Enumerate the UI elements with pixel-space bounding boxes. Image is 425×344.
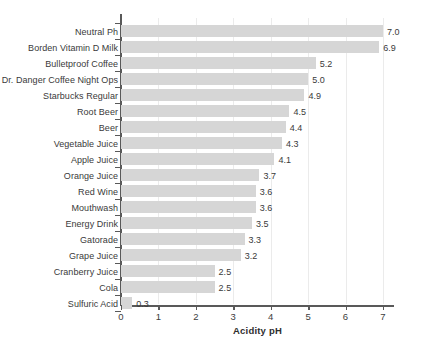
category-label: Cola — [99, 283, 118, 293]
value-label: 3.6 — [260, 203, 273, 213]
category-label: Starbucks Regular — [43, 91, 118, 101]
x-tick-label-5: 5 — [305, 311, 310, 322]
category-label: Bulletproof Coffee — [45, 59, 118, 69]
x-tick-2 — [196, 305, 197, 310]
value-label: 4.3 — [286, 139, 299, 149]
x-tick-label-1: 1 — [156, 311, 161, 322]
bar — [121, 217, 252, 229]
value-label: 4.4 — [290, 123, 303, 133]
x-tick-label-7: 7 — [380, 311, 385, 322]
value-label: 2.5 — [219, 283, 232, 293]
x-tick-label-6: 6 — [343, 311, 348, 322]
category-label: Energy Drink — [65, 219, 118, 229]
value-label: 2.5 — [219, 267, 232, 277]
gridline-6 — [346, 18, 347, 304]
bar — [121, 265, 215, 277]
bar — [121, 249, 241, 261]
x-tick-label-2: 2 — [193, 311, 198, 322]
category-label: Mouthwash — [72, 203, 118, 213]
category-label: Beer — [99, 123, 118, 133]
value-label: 0.3 — [136, 299, 149, 309]
x-tick-label-3: 3 — [231, 311, 236, 322]
value-label: 4.1 — [278, 155, 291, 165]
value-label: 3.7 — [263, 171, 276, 181]
x-tick-0 — [121, 305, 122, 310]
category-label: Vegetable Juice — [54, 139, 118, 149]
value-label: 6.9 — [383, 43, 396, 53]
bar — [121, 153, 274, 165]
x-tick-4 — [271, 305, 272, 310]
category-label: Dr. Danger Coffee Night Ops — [2, 75, 118, 85]
x-tick-5 — [308, 305, 309, 310]
value-label: 3.6 — [260, 187, 273, 197]
bar — [121, 105, 289, 117]
value-label: 3.3 — [249, 235, 262, 245]
category-label: Cranberry Juice — [54, 267, 118, 277]
category-label: Orange Juice — [64, 171, 118, 181]
bar — [121, 57, 316, 69]
bar — [121, 169, 259, 181]
category-label: Neutral Ph — [75, 27, 118, 37]
bar — [121, 185, 256, 197]
x-tick-label-4: 4 — [268, 311, 273, 322]
value-label: 7.0 — [387, 27, 400, 37]
x-tick-1 — [158, 305, 159, 310]
x-tick-label-0: 0 — [118, 311, 123, 322]
category-label: Apple Juice — [71, 155, 118, 165]
bar — [121, 41, 379, 53]
value-label: 5.2 — [320, 59, 333, 69]
bar — [121, 297, 132, 309]
value-label: 3.2 — [245, 251, 258, 261]
value-label: 5.0 — [312, 75, 325, 85]
x-tick-3 — [233, 305, 234, 310]
category-label: Borden Vitamin D Milk — [28, 43, 118, 53]
x-tick-7 — [383, 305, 384, 310]
x-axis-line — [121, 305, 394, 307]
bar — [121, 281, 215, 293]
value-label: 4.9 — [308, 91, 321, 101]
x-axis-title: Acidity pH — [121, 325, 394, 336]
bar — [121, 25, 383, 37]
bar — [121, 137, 282, 149]
acidity-ph-bar-chart: Neutral PhBorden Vitamin D MilkBulletpro… — [0, 0, 425, 344]
plot-area: Neutral PhBorden Vitamin D MilkBulletpro… — [0, 0, 425, 344]
category-label: Grape Juice — [69, 251, 118, 261]
category-label: Sulfuric Acid — [68, 299, 118, 309]
category-label: Red Wine — [78, 187, 118, 197]
bar — [121, 73, 308, 85]
gridline-7 — [383, 18, 384, 304]
bar — [121, 89, 304, 101]
bar — [121, 121, 286, 133]
bar — [121, 201, 256, 213]
bar — [121, 233, 245, 245]
x-tick-6 — [346, 305, 347, 310]
category-label: Root Beer — [77, 107, 118, 117]
category-label: Gatorade — [80, 235, 118, 245]
value-label: 4.5 — [293, 107, 306, 117]
value-label: 3.5 — [256, 219, 269, 229]
